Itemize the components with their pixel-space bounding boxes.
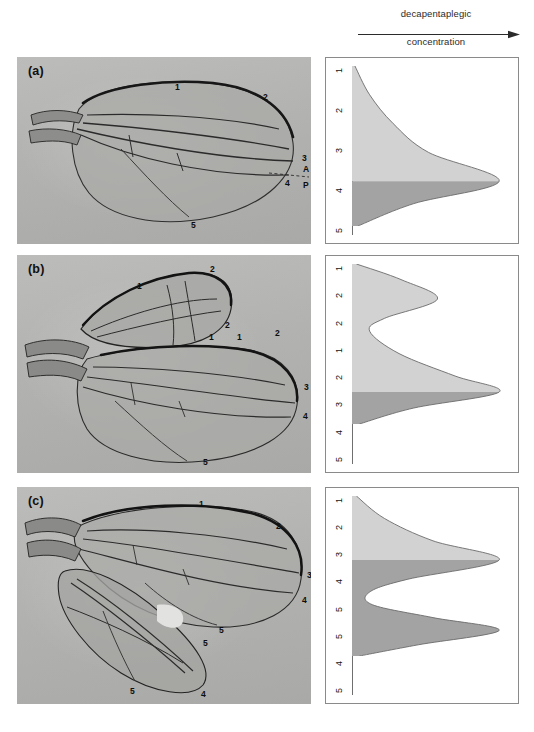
gradient-diagram-a: 1 2 3 4 5 bbox=[325, 57, 519, 244]
axis-label: 1 bbox=[335, 498, 344, 503]
wing-illustration-b bbox=[17, 255, 311, 473]
panel-row-b: (b) 2 1 2 1 1 2 3 4 5 1 2 2 1 2 3 4 5 bbox=[0, 255, 534, 473]
vein-label-4: 4 bbox=[302, 596, 307, 605]
vein-label-4: 4 bbox=[201, 690, 206, 699]
panel-row-c: (c) 1 2 3 4 5 5 5 4 1 2 3 4 5 5 4 5 bbox=[0, 487, 534, 704]
vein-label-1: 1 bbox=[209, 333, 214, 342]
compartment-label-anterior: A bbox=[303, 165, 309, 174]
axis-label: 2 bbox=[335, 375, 344, 380]
panel-row-a: (a) 1 2 3 4 A P 5 1 2 3 4 5 bbox=[0, 57, 534, 244]
axis-label: 2 bbox=[335, 293, 344, 298]
vein-label-2: 2 bbox=[210, 265, 215, 274]
axis-label: 5 bbox=[335, 634, 344, 639]
wing-illustration-c bbox=[17, 487, 311, 704]
axis-label: 4 bbox=[335, 188, 344, 193]
axis-label: 3 bbox=[335, 402, 344, 407]
axis-label: 5 bbox=[335, 228, 344, 233]
vein-label-3: 3 bbox=[307, 571, 311, 580]
axis-label: 3 bbox=[335, 552, 344, 557]
gradient-diagram-c: 1 2 3 4 5 5 4 5 bbox=[325, 487, 519, 704]
axis-label: 1 bbox=[335, 266, 344, 271]
axis-label: 5 bbox=[335, 607, 344, 612]
panel-letter-a: (a) bbox=[28, 64, 44, 78]
gradient-curve-b bbox=[352, 264, 512, 424]
vein-label-5: 5 bbox=[130, 687, 135, 696]
vein-label-5: 5 bbox=[191, 221, 196, 230]
gradient-curve-a bbox=[352, 66, 512, 226]
axis-label: 1 bbox=[335, 348, 344, 353]
axis-label: 5 bbox=[335, 688, 344, 693]
axis-label: 5 bbox=[335, 457, 344, 462]
vein-label-1: 1 bbox=[199, 500, 204, 509]
diagram-axis-labels-c: 1 2 3 4 5 5 4 5 bbox=[330, 496, 350, 695]
wing-illustration-a bbox=[17, 57, 311, 244]
vein-label-1: 1 bbox=[237, 333, 242, 342]
panel-letter-b: (b) bbox=[28, 262, 45, 276]
axis-label: 2 bbox=[335, 525, 344, 530]
axis-label: 2 bbox=[335, 321, 344, 326]
figure-header: decapentaplegic concentration bbox=[352, 8, 528, 52]
gradient-curve-c bbox=[352, 496, 512, 656]
wing-photo-c: (c) 1 2 3 4 5 5 5 4 bbox=[17, 487, 311, 704]
vein-label-3: 3 bbox=[304, 383, 309, 392]
vein-label-1: 1 bbox=[175, 83, 180, 92]
vein-label-5: 5 bbox=[203, 458, 208, 467]
compartment-label-posterior: P bbox=[303, 181, 309, 190]
vein-label-2: 2 bbox=[225, 321, 230, 330]
vein-label-4: 4 bbox=[285, 179, 290, 188]
vein-label-3: 3 bbox=[302, 154, 307, 163]
header-title-bottom: concentration bbox=[352, 36, 520, 47]
diagram-axis-labels-b: 1 2 2 1 2 3 4 5 bbox=[330, 264, 350, 464]
vein-label-5: 5 bbox=[219, 626, 224, 635]
wing-photo-a: (a) 1 2 3 4 A P 5 bbox=[17, 57, 311, 244]
vein-label-4: 4 bbox=[303, 412, 308, 421]
axis-label: 4 bbox=[335, 661, 344, 666]
axis-label: 3 bbox=[335, 148, 344, 153]
wing-photo-b: (b) 2 1 2 1 1 2 3 4 5 bbox=[17, 255, 311, 473]
vein-label-2: 2 bbox=[263, 93, 268, 102]
header-title-top: decapentaplegic bbox=[352, 8, 520, 19]
axis-label: 1 bbox=[335, 68, 344, 73]
vein-label-2: 2 bbox=[275, 329, 280, 338]
vein-label-2: 2 bbox=[276, 522, 281, 531]
panel-letter-c: (c) bbox=[28, 494, 44, 508]
axis-label: 2 bbox=[335, 108, 344, 113]
vein-label-5: 5 bbox=[203, 639, 208, 648]
diagram-axis-labels-a: 1 2 3 4 5 bbox=[330, 66, 350, 235]
vein-label-1: 1 bbox=[137, 282, 142, 291]
gradient-diagram-b: 1 2 2 1 2 3 4 5 bbox=[325, 255, 519, 473]
axis-label: 4 bbox=[335, 579, 344, 584]
axis-label: 4 bbox=[335, 430, 344, 435]
